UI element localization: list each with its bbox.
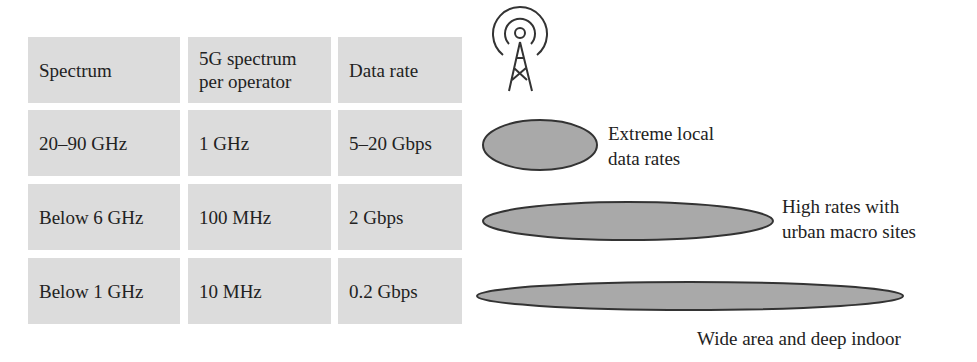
caption-wide-area: Wide area and deep indoor (697, 326, 901, 351)
coverage-diagram (0, 0, 977, 362)
cell-tower-icon (493, 7, 547, 91)
coverage-ellipse-large (477, 282, 903, 310)
coverage-ellipse-small (483, 120, 597, 170)
coverage-ellipse-medium (483, 202, 773, 240)
caption-urban-macro: High rates withurban macro sites (782, 194, 916, 244)
caption-extreme-local: Extreme localdata rates (608, 121, 714, 171)
